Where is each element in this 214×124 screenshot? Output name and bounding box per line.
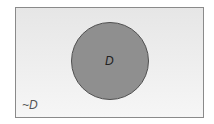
set-d-label: D — [105, 54, 114, 68]
complement-label: ~D — [22, 98, 38, 112]
